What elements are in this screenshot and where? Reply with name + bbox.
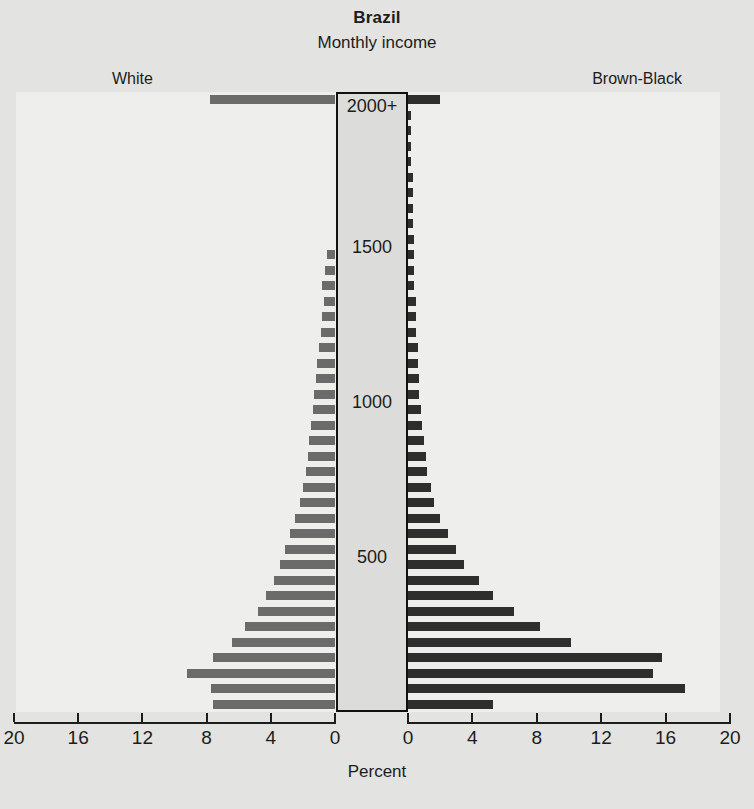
- x-axis-tick-label-left: 16: [68, 727, 89, 749]
- bar-white: [232, 638, 335, 647]
- center-band-top-cap: [336, 92, 408, 94]
- category-tick-label: 1500: [336, 237, 408, 258]
- bar-white: [313, 405, 335, 414]
- x-axis-tick-label-right: 4: [467, 727, 478, 749]
- left-group-label: White: [112, 70, 153, 88]
- x-axis-tick-label-right: 16: [655, 727, 676, 749]
- bar-brown-black: [408, 452, 426, 461]
- bar-white: [300, 498, 335, 507]
- bar-white: [327, 250, 335, 259]
- bar-white: [187, 669, 335, 678]
- x-axis-title: Percent: [0, 762, 754, 782]
- right-group-label: Brown-Black: [592, 70, 682, 88]
- chart-canvas: Brazil Monthly income White Brown-Black …: [0, 0, 754, 809]
- bar-brown-black: [408, 607, 514, 616]
- bar-white: [258, 607, 335, 616]
- bar-white: [308, 452, 335, 461]
- chart-title: Brazil: [0, 8, 754, 28]
- bar-white: [245, 622, 335, 631]
- right-bars-panel: [408, 92, 730, 712]
- bar-brown-black: [408, 529, 448, 538]
- bar-brown-black: [408, 157, 411, 166]
- bar-white: [211, 684, 335, 693]
- bar-brown-black: [408, 700, 493, 709]
- bar-white: [266, 591, 335, 600]
- x-axis-tick-label-right: 0: [403, 727, 414, 749]
- bar-white: [317, 359, 335, 368]
- x-axis-tick-left: [77, 713, 79, 722]
- x-axis-tick-label-right: 12: [591, 727, 612, 749]
- bar-brown-black: [408, 653, 662, 662]
- x-axis-tick-right: [407, 713, 409, 722]
- bar-white: [213, 653, 335, 662]
- x-axis-tick-label-left: 20: [3, 727, 24, 749]
- x-axis-tick-label-left: 0: [330, 727, 341, 749]
- bar-brown-black: [408, 390, 419, 399]
- bar-brown-black: [408, 235, 414, 244]
- chart-subtitle: Monthly income: [0, 33, 754, 53]
- bar-white: [285, 545, 335, 554]
- x-axis-line-right: [407, 722, 731, 724]
- x-axis-tick-left: [13, 713, 15, 722]
- bar-brown-black: [408, 142, 411, 151]
- x-axis-tick-label-right: 20: [719, 727, 740, 749]
- left-bars-panel: [14, 92, 335, 712]
- x-axis-tick-label-left: 12: [132, 727, 153, 749]
- category-tick-label: 1000: [336, 392, 408, 413]
- bar-white: [314, 390, 335, 399]
- x-axis-tick-right: [471, 713, 473, 722]
- x-axis-tick-left: [270, 713, 272, 722]
- bar-brown-black: [408, 560, 464, 569]
- bar-white: [309, 436, 335, 445]
- bar-white: [210, 95, 335, 104]
- bar-white: [306, 467, 335, 476]
- bar-white: [324, 297, 335, 306]
- bar-white: [295, 514, 335, 523]
- bar-brown-black: [408, 591, 493, 600]
- x-axis-tick-right: [536, 713, 538, 722]
- x-axis-tick-label-left: 4: [266, 727, 277, 749]
- bar-brown-black: [408, 281, 414, 290]
- bar-brown-black: [408, 467, 427, 476]
- bar-brown-black: [408, 622, 540, 631]
- x-axis-tick-right: [729, 713, 731, 722]
- bar-white: [322, 281, 335, 290]
- x-axis-tick-left: [141, 713, 143, 722]
- bar-brown-black: [408, 219, 413, 228]
- x-axis-tick-label-right: 8: [532, 727, 543, 749]
- category-label-top: 2000+: [336, 96, 408, 117]
- bar-white: [303, 483, 335, 492]
- x-axis-tick-left: [206, 713, 208, 722]
- bar-brown-black: [408, 343, 418, 352]
- bar-brown-black: [408, 328, 416, 337]
- bar-brown-black: [408, 638, 571, 647]
- bar-brown-black: [408, 359, 418, 368]
- bar-brown-black: [408, 126, 411, 135]
- bar-brown-black: [408, 421, 422, 430]
- bar-white: [280, 560, 335, 569]
- bar-brown-black: [408, 483, 431, 492]
- bar-brown-black: [408, 684, 685, 693]
- bar-white: [311, 421, 335, 430]
- x-axis-tick-left: [334, 713, 336, 722]
- bar-brown-black: [408, 545, 456, 554]
- bar-brown-black: [408, 374, 419, 383]
- bar-white: [325, 266, 335, 275]
- bar-brown-black: [408, 436, 424, 445]
- bar-brown-black: [408, 312, 416, 321]
- bar-brown-black: [408, 173, 413, 182]
- x-axis-tick-right: [600, 713, 602, 722]
- bar-white: [319, 343, 335, 352]
- bar-brown-black: [408, 95, 440, 104]
- bar-brown-black: [408, 250, 414, 259]
- x-axis-tick-right: [665, 713, 667, 722]
- x-axis-line-left: [14, 722, 336, 724]
- bar-brown-black: [408, 188, 413, 197]
- bar-white: [274, 576, 335, 585]
- bar-brown-black: [408, 498, 434, 507]
- center-band-bottom-cap: [336, 710, 408, 712]
- bar-brown-black: [408, 514, 440, 523]
- bar-brown-black: [408, 204, 413, 213]
- bar-white: [321, 328, 335, 337]
- bar-brown-black: [408, 266, 414, 275]
